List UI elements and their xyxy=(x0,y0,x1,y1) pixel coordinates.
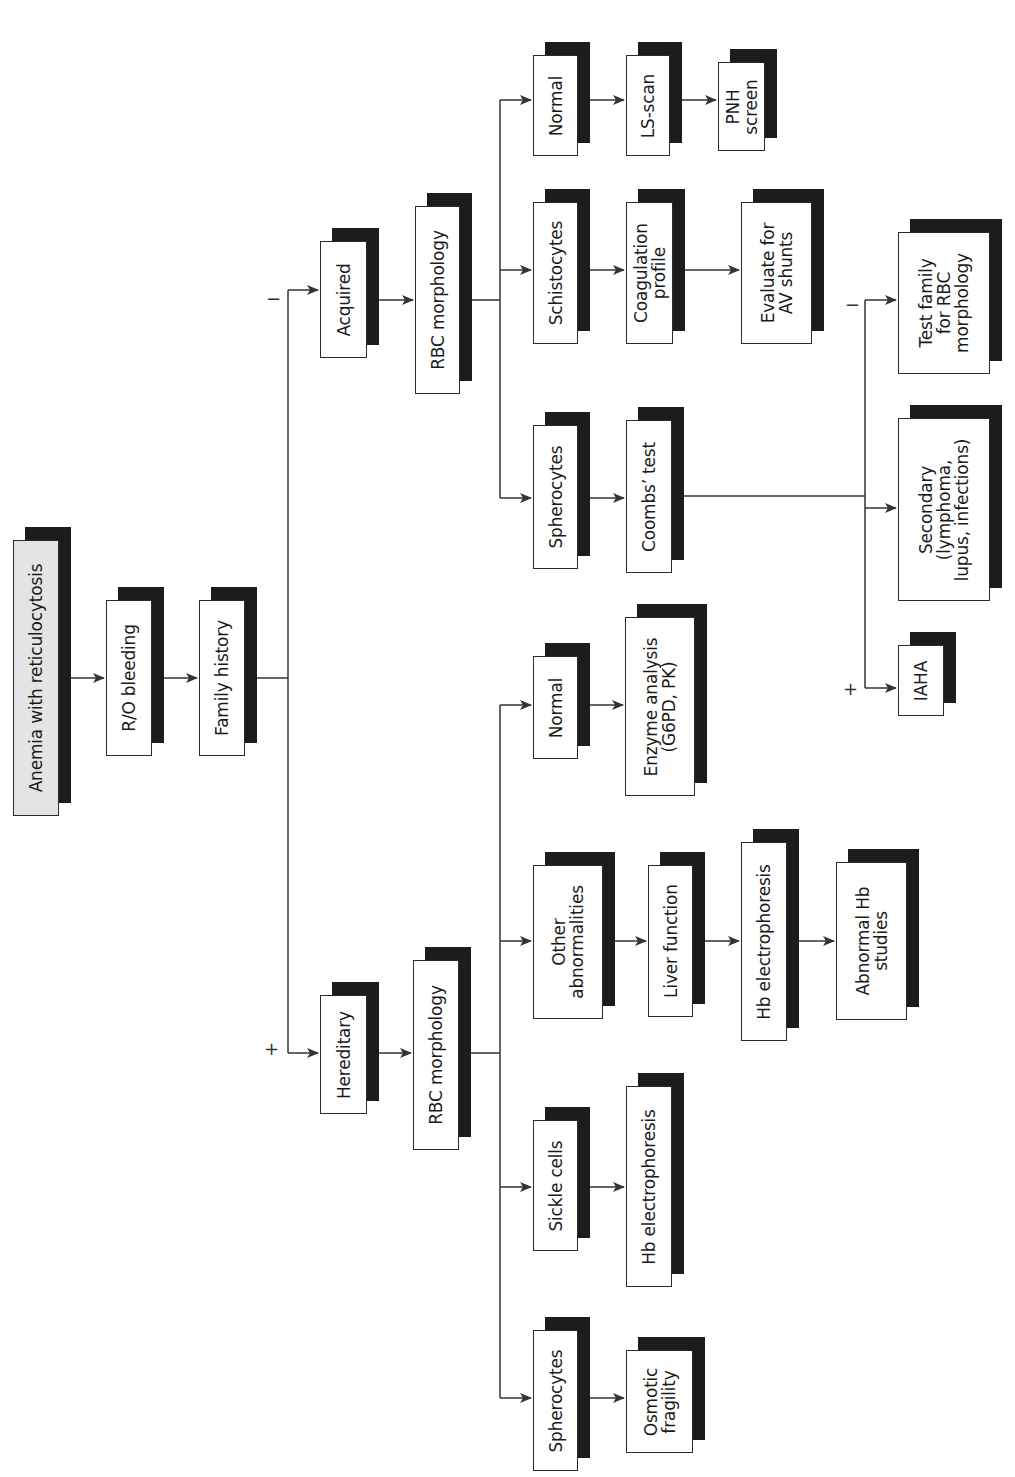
node-test-family: Test family for RBC morphology xyxy=(898,232,990,374)
node-label: Evaluate for AV shunts xyxy=(759,223,795,324)
node-acquired-normal: Normal xyxy=(533,55,578,156)
node-label: Liver function xyxy=(662,884,680,998)
node-coagulation-profile: Coagulation profile xyxy=(626,202,673,344)
node-label: IAHA xyxy=(912,660,930,700)
node-anemia-with-reticulocytosis: Anemia with reticulocytosis xyxy=(13,540,59,816)
node-ro-bleeding: R/O bleeding xyxy=(106,600,152,756)
node-enzyme-analysis: Enzyme analysis (G6PD, PK) xyxy=(625,617,695,796)
family-history-positive-sign: + xyxy=(264,1040,279,1058)
flowchart-canvas: − + − + Anemia with reticulocytosis R/O … xyxy=(0,0,1015,1477)
node-schistocytes: Schistocytes xyxy=(533,202,578,344)
node-iaha: IAHA xyxy=(898,645,944,716)
node-label: Enzyme analysis (G6PD, PK) xyxy=(642,637,678,776)
coombs-positive-sign: + xyxy=(843,680,858,698)
node-label: Normal xyxy=(547,677,565,737)
node-label: Coagulation profile xyxy=(632,223,668,323)
node-other-abnormalities: Other abnormalities xyxy=(533,865,603,1019)
node-label: Anemia with reticulocytosis xyxy=(27,564,45,793)
node-label: Hb electrophoresis xyxy=(755,864,773,1020)
node-label: Schistocytes xyxy=(547,221,565,326)
node-label: Acquired xyxy=(335,263,353,336)
node-rbc-morphology-acquired: RBC morphology xyxy=(415,206,460,394)
node-rbc-morphology-hereditary: RBC morphology xyxy=(413,960,459,1150)
node-abnormal-hb-studies: Abnormal Hb studies xyxy=(836,862,907,1020)
node-coombs-test: Coombs’ test xyxy=(626,420,672,573)
node-label: Spherocytes xyxy=(547,445,565,548)
node-family-history: Family history xyxy=(199,600,245,756)
node-label: Hb electrophoresis xyxy=(640,1109,658,1265)
node-osmotic-fragility: Osmotic fragility xyxy=(626,1350,693,1453)
node-label: R/O bleeding xyxy=(120,624,138,731)
coombs-negative-sign: − xyxy=(845,296,860,314)
node-label: Sickle cells xyxy=(547,1140,565,1231)
node-hb-electrophoresis-mid: Hb electrophoresis xyxy=(741,842,787,1041)
node-hb-electrophoresis-bottom: Hb electrophoresis xyxy=(626,1086,672,1287)
node-label: Abnormal Hb studies xyxy=(854,887,890,996)
node-sickle-cells: Sickle cells xyxy=(533,1120,578,1251)
node-secondary: Secondary (lymphoma, lupus, infections) xyxy=(898,418,990,601)
node-label: LS-scan xyxy=(639,73,657,137)
node-label: Normal xyxy=(547,75,565,135)
node-liver-function: Liver function xyxy=(648,865,693,1017)
node-evaluate-av-shunts: Evaluate for AV shunts xyxy=(741,202,812,344)
node-label: RBC morphology xyxy=(427,985,445,1125)
node-label: RBC morphology xyxy=(429,230,447,370)
node-label: Spherocytes xyxy=(547,1349,565,1452)
node-label: Family history xyxy=(213,620,231,736)
node-hereditary-spherocytes: Spherocytes xyxy=(533,1330,578,1471)
node-label: Osmotic fragility xyxy=(642,1367,678,1436)
node-ls-scan: LS-scan xyxy=(626,55,670,156)
node-label: PNH screen xyxy=(724,79,760,134)
node-label: Hereditary xyxy=(335,1011,353,1099)
node-pnh-screen: PNH screen xyxy=(718,62,765,151)
node-label: Coombs’ test xyxy=(640,442,658,552)
node-hereditary: Hereditary xyxy=(320,995,367,1114)
node-label: Secondary (lymphoma, lupus, infections) xyxy=(917,438,971,580)
node-label: Other abnormalities xyxy=(550,885,586,999)
node-hereditary-normal: Normal xyxy=(533,656,578,759)
node-label: Test family for RBC morphology xyxy=(917,253,971,353)
node-acquired: Acquired xyxy=(320,241,367,358)
node-acquired-spherocytes: Spherocytes xyxy=(533,425,578,569)
family-history-negative-sign: − xyxy=(266,290,281,308)
